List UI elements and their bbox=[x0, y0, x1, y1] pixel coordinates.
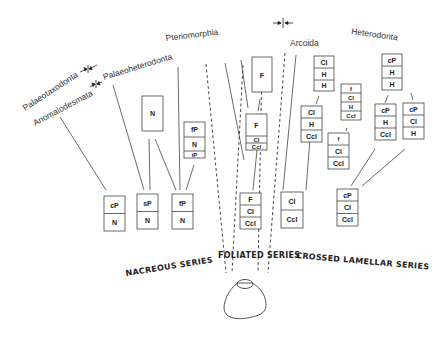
box-F: F bbox=[252, 57, 272, 92]
box-fP-N: fP N bbox=[172, 194, 193, 229]
series-label-crossed-lamellar: CROSSED LAMELLAR SERIES bbox=[296, 251, 430, 272]
box-cell: Cl bbox=[289, 198, 296, 205]
shell-outline-icon bbox=[224, 280, 266, 319]
box-cell: cP bbox=[343, 192, 352, 199]
box-cell: F bbox=[248, 196, 253, 203]
box-cell: F bbox=[254, 122, 259, 129]
box-cell: cP bbox=[110, 202, 119, 209]
box-Cl-H-H: Cl H H bbox=[314, 56, 334, 91]
box-cell: H bbox=[321, 82, 326, 89]
box-cell: Ccl bbox=[245, 220, 256, 227]
box-fP-N-iP: fP N iP bbox=[184, 122, 205, 158]
box-cell: H bbox=[389, 81, 394, 88]
box-cell: fP bbox=[179, 200, 186, 207]
box-cP-N: cP N bbox=[104, 196, 125, 231]
box-cell: Ccl bbox=[306, 133, 317, 140]
clade-label-palaeoheterodonta: Palaeoheterodonta bbox=[102, 51, 174, 82]
box-cP-H-Ccl: cP H Ccl bbox=[375, 104, 396, 140]
box-cell: N bbox=[145, 217, 150, 224]
box-f-Cl-Ccl: f Cl Ccl bbox=[328, 133, 349, 169]
box-F-Cl-Ccl: F Cl Ccl bbox=[246, 114, 267, 150]
box-cell: Cl bbox=[410, 118, 417, 125]
box-cell: N bbox=[150, 110, 155, 117]
box-cell: H bbox=[309, 121, 314, 128]
box-cell: cP bbox=[381, 107, 390, 114]
box-cell: cP bbox=[388, 57, 397, 64]
box-cell: iP bbox=[192, 152, 198, 158]
clade-label-heterodonta: Heterodonta bbox=[351, 26, 399, 42]
box-cell: Cl bbox=[254, 137, 260, 143]
box-N: N bbox=[142, 96, 163, 131]
box-cell: Ccl bbox=[287, 216, 298, 223]
box-cell: H bbox=[411, 130, 416, 137]
box-cell: Cl bbox=[308, 109, 315, 116]
series-label-foliated: FOLIATED SERIES bbox=[218, 251, 300, 260]
box-cell: H bbox=[383, 119, 388, 126]
box-cell: Cl bbox=[344, 204, 351, 211]
box-Cl-H-Ccl: Cl H Ccl bbox=[301, 106, 322, 142]
box-cell: Ccl bbox=[252, 144, 262, 150]
box-cell: H bbox=[389, 69, 394, 76]
box-cell: Ccl bbox=[346, 113, 356, 119]
microstructure-boxes: cP N sP N fP N N fP N iP bbox=[104, 54, 424, 231]
box-sP-N: sP N bbox=[137, 194, 158, 229]
box-cP-Cl-Ccl: cP Cl Ccl bbox=[337, 189, 358, 226]
box-Cl-Ccl: Cl Ccl bbox=[281, 192, 303, 228]
box-cell: H bbox=[321, 71, 326, 78]
box-cell: Cl bbox=[247, 208, 254, 215]
box-cell: F bbox=[260, 72, 265, 79]
series-labels: NACREOUS SERIES FOLIATED SERIES CROSSED … bbox=[125, 251, 430, 278]
box-cell: N bbox=[112, 219, 117, 226]
box-cP-Cl-H: cP Cl H bbox=[403, 103, 424, 139]
box-cell: cP bbox=[409, 106, 418, 113]
box-F-Cl-Ccl: F Cl Ccl bbox=[240, 193, 261, 229]
box-cell: sP bbox=[143, 200, 152, 207]
box-cP-H-H: cP H H bbox=[382, 54, 402, 90]
bivalve-shell-microstructure-diagram: Palaeotaxodonta Anomalodesmata Palaeohet… bbox=[0, 0, 447, 338]
box-cell: Ccl bbox=[333, 160, 344, 167]
box-cell: fP bbox=[191, 126, 198, 133]
box-cell: H bbox=[349, 104, 353, 110]
box-cell: Cl bbox=[335, 148, 342, 155]
box-cell: Cl bbox=[321, 59, 328, 66]
box-cell: Ccl bbox=[342, 216, 353, 223]
clade-label-pteriomorphia: Pteriomorphia bbox=[165, 27, 219, 43]
box-cell: N bbox=[180, 217, 185, 224]
foliated-boundary-dashes bbox=[206, 53, 285, 273]
clade-label-arcoida: Arcoida bbox=[290, 38, 319, 48]
box-cell: Cl bbox=[348, 95, 354, 101]
box-cell: N bbox=[192, 141, 197, 148]
box-cell: Ccl bbox=[380, 131, 391, 138]
series-label-nacreous: NACREOUS SERIES bbox=[125, 255, 214, 278]
box-f-Cl-H-Ccl: f Cl H Ccl bbox=[341, 84, 361, 120]
